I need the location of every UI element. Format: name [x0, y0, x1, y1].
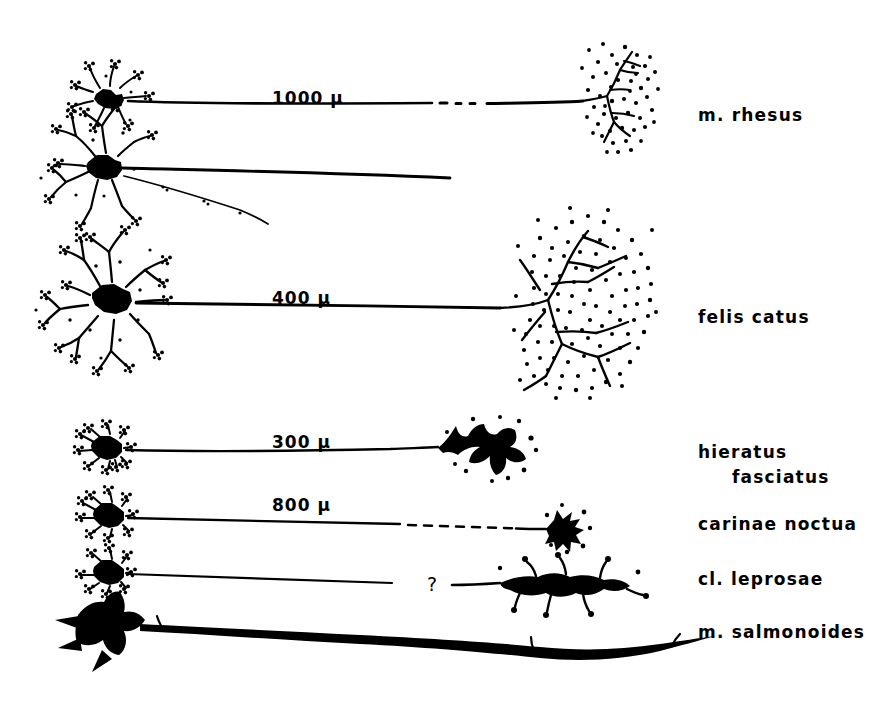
row-m-salmonoides-neuron [55, 591, 716, 672]
species-label-m-rhesus: m. rhesus [698, 103, 803, 128]
comparative-neuron-figure: 1000 μ 400 μ 300 μ 800 μ ? m. rhesus fel… [0, 0, 887, 705]
species-label-line-hieratus: hieratus [698, 442, 787, 462]
species-label-felis-catus: felis catus [698, 305, 810, 330]
row-cl-leprosae-neuron [75, 543, 649, 618]
row-rhesus-neuron [67, 42, 660, 154]
species-label-cl-leprosae: cl. leprosae [698, 567, 823, 592]
row-rhesus-second-neuron [39, 102, 450, 231]
scale-label-400u: 400 μ [272, 288, 331, 308]
species-label-m-salmonoides: m. salmonoides [698, 620, 865, 645]
scale-label-300u: 300 μ [272, 432, 331, 452]
unknown-distance-marker: ? [427, 573, 437, 595]
scale-label-1000u: 1000 μ [272, 88, 344, 108]
row-felis-catus-neuron [34, 206, 658, 400]
species-label-line-fasciatus: fasciatus [698, 465, 830, 490]
scale-label-800u: 800 μ [272, 495, 331, 515]
species-label-hieratus-fasciatus: hieratus fasciatus [698, 440, 830, 489]
species-label-carinae-noctua: carinae noctua [698, 512, 857, 537]
row-carinae-noctua-neuron [75, 485, 592, 554]
